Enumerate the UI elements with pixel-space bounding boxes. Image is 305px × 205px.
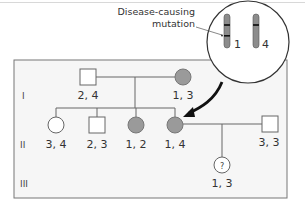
chromosome-1-label: 1 [234,38,241,51]
chromosome-4-label: 4 [262,38,269,51]
gen2-son-square [89,117,105,133]
gen1-father-genotype: 2, 4 [78,89,99,102]
gen2-daughter-a-circle [48,117,64,133]
gen1-mother-genotype: 1, 3 [173,89,194,102]
chromosome-inset-circle [207,1,289,83]
gen2-daughter-a-genotype: 3, 4 [46,138,67,151]
generation-label-2: II [20,140,25,150]
question-mark-icon: ? [220,162,224,171]
gen2-spouse-square [262,116,278,132]
gen2-spouse-genotype: 3, 3 [259,136,280,149]
gen1-mother-circle-affected [175,69,191,85]
generation-label-1: I [22,91,25,101]
gen2-daughter-b-circle-affected [128,117,144,133]
gen2-daughter-c-genotype: 1, 4 [165,138,186,151]
pedigree-diagram: I II III 2, 4 1, 3 3, 4 2, 3 1, 2 1, 4 3… [0,0,305,205]
gen2-daughter-c-circle-affected [167,117,183,133]
gen1-father-square [80,69,96,85]
annotation-line2: mutation [152,18,195,29]
gen3-child-genotype: 1, 3 [212,177,233,190]
chromosome-1-icon [224,14,230,48]
annotation-line1: Disease-causing [118,6,196,17]
gen2-daughter-b-genotype: 1, 2 [126,138,147,151]
pointer-dot [221,35,223,37]
chromosome-4-icon [253,14,259,48]
gen2-son-genotype: 2, 3 [87,138,108,151]
generation-label-3: III [20,179,28,189]
